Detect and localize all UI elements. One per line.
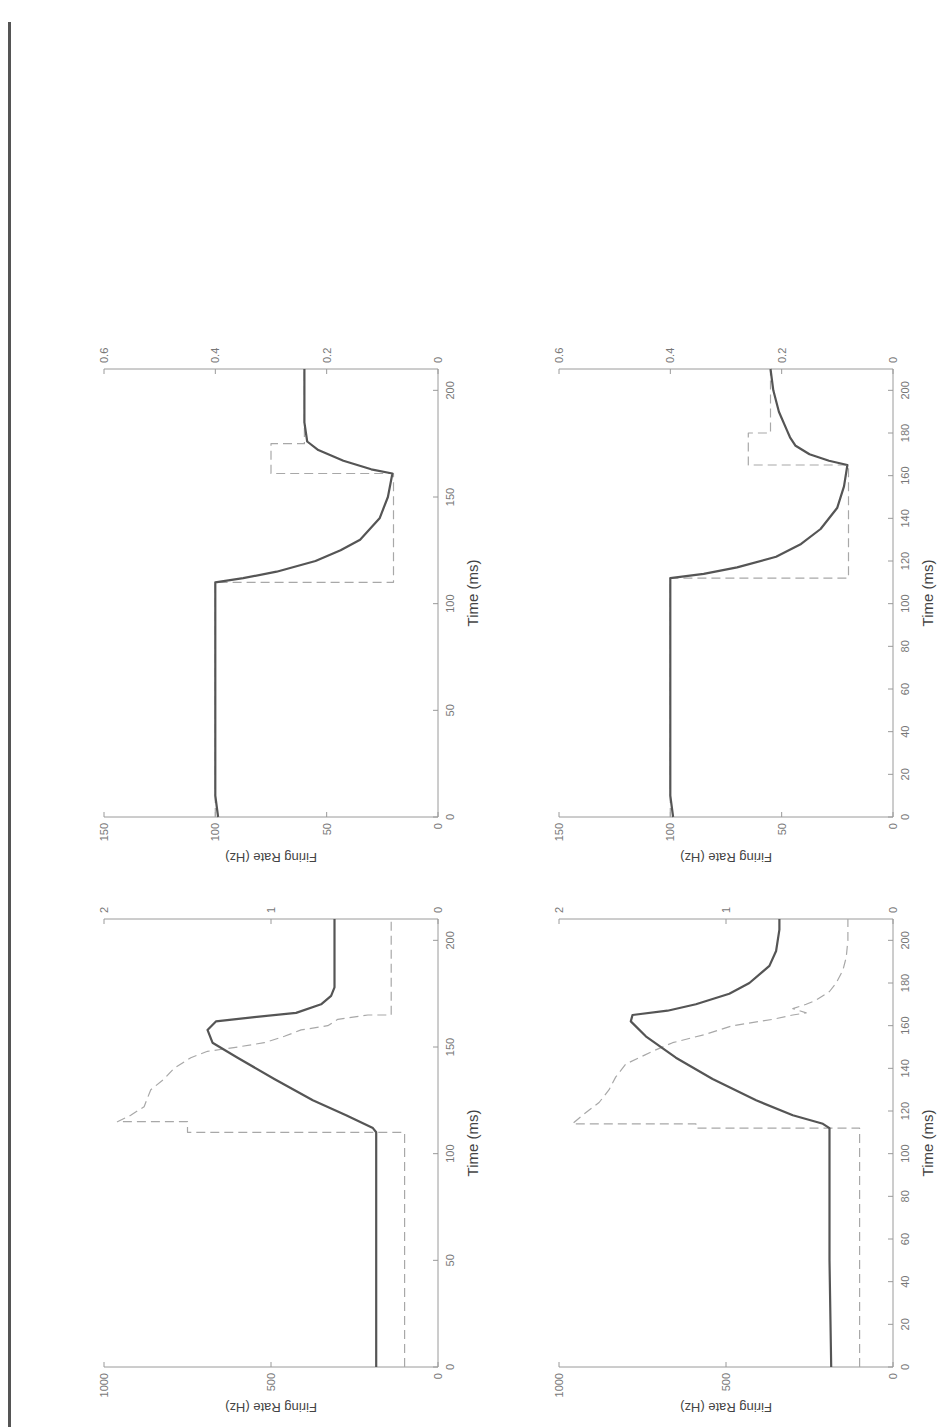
y2-tick-label: 0.6 xyxy=(553,348,565,363)
x-tick-label: 40 xyxy=(899,726,911,738)
x-tick-label: 120 xyxy=(899,1102,911,1120)
margin-rule xyxy=(8,22,11,1427)
y-tick-label: 100 xyxy=(209,823,221,841)
x-tick-label: 60 xyxy=(899,683,911,695)
tension-line xyxy=(670,369,847,817)
x-tick-label: 100 xyxy=(444,594,456,612)
chart-svg: 05010015020005010015000.20.40.6Time (ms)… xyxy=(60,345,500,875)
x-tick-label: 200 xyxy=(899,381,911,399)
y-tick-label: 50 xyxy=(776,823,788,835)
x-tick-label: 20 xyxy=(899,768,911,780)
x-tick-label: 50 xyxy=(444,704,456,716)
x-tick-label: 80 xyxy=(899,640,911,652)
x-axis-title: Time (ms) xyxy=(464,1110,481,1177)
rotated-chart: 05010015020005001000012Time (ms)Firing R… xyxy=(60,895,500,1425)
x-tick-label: 0 xyxy=(899,814,911,820)
x-tick-label: 160 xyxy=(899,466,911,484)
y-tick-label: 0 xyxy=(887,823,899,829)
y-axis-title: Firing Rate (Hz) xyxy=(680,1400,772,1415)
x-tick-label: 50 xyxy=(444,1254,456,1266)
y-tick-label: 1000 xyxy=(553,1373,565,1397)
x-axis-title: Time (ms) xyxy=(919,560,936,627)
y2-tick-label: 0 xyxy=(432,907,444,913)
y-tick-label: 0 xyxy=(432,1373,444,1379)
x-tick-label: 120 xyxy=(899,552,911,570)
chart-panel-d: 02040608010012014016018020005001000012Ti… xyxy=(515,895,943,1425)
x-tick-label: 200 xyxy=(444,931,456,949)
x-tick-label: 180 xyxy=(899,424,911,442)
y2-tick-label: 0 xyxy=(887,357,899,363)
chart-panel-a: 05010015020005010015000.20.40.6Time (ms)… xyxy=(60,345,500,875)
y-tick-label: 0 xyxy=(432,823,444,829)
x-tick-label: 20 xyxy=(899,1318,911,1330)
x-tick-label: 0 xyxy=(444,814,456,820)
x-axis-title: Time (ms) xyxy=(919,1110,936,1177)
x-tick-label: 100 xyxy=(899,594,911,612)
x-tick-label: 60 xyxy=(899,1233,911,1245)
chart-panel-b: 02040608010012014016018020005010015000.2… xyxy=(515,345,943,875)
y-tick-label: 500 xyxy=(265,1373,277,1391)
x-tick-label: 0 xyxy=(899,1364,911,1370)
x-tick-label: 100 xyxy=(899,1144,911,1162)
rotated-chart: 02040608010012014016018020005001000012Ti… xyxy=(515,895,943,1425)
y2-tick-label: 0.2 xyxy=(776,348,788,363)
x-tick-label: 200 xyxy=(899,931,911,949)
x-tick-label: 160 xyxy=(899,1016,911,1034)
y2-tick-label: 2 xyxy=(98,907,110,913)
y2-tick-label: 0.4 xyxy=(664,348,676,363)
chart-svg: 05010015020005001000012Time (ms)Firing R… xyxy=(60,895,500,1425)
y2-tick-label: 0.4 xyxy=(209,348,221,363)
x-tick-label: 140 xyxy=(899,1059,911,1077)
y2-tick-label: 0.6 xyxy=(98,348,110,363)
chart-svg: 02040608010012014016018020005010015000.2… xyxy=(515,345,943,875)
y2-tick-label: 2 xyxy=(553,907,565,913)
chart-svg: 02040608010012014016018020005001000012Ti… xyxy=(515,895,943,1425)
y-tick-label: 0 xyxy=(887,1373,899,1379)
firing-rate-line xyxy=(670,369,848,817)
firing-rate-line xyxy=(215,369,393,817)
x-tick-label: 140 xyxy=(899,509,911,527)
x-tick-label: 150 xyxy=(444,488,456,506)
y-tick-label: 50 xyxy=(321,823,333,835)
x-tick-label: 0 xyxy=(444,1364,456,1370)
tension-line xyxy=(208,919,377,1367)
x-tick-label: 150 xyxy=(444,1038,456,1056)
rotated-chart: 02040608010012014016018020005010015000.2… xyxy=(515,345,943,875)
y-axis-title: Firing Rate (Hz) xyxy=(680,850,772,865)
y-tick-label: 150 xyxy=(98,823,110,841)
firing-rate-line xyxy=(572,919,859,1367)
y2-tick-label: 0.2 xyxy=(321,348,333,363)
y2-tick-label: 1 xyxy=(720,907,732,913)
y-tick-label: 100 xyxy=(664,823,676,841)
y2-tick-label: 1 xyxy=(265,907,277,913)
y-tick-label: 500 xyxy=(720,1373,732,1391)
y-tick-label: 1000 xyxy=(98,1373,110,1397)
y-axis-title: Firing Rate (Hz) xyxy=(225,850,317,865)
y2-tick-label: 0 xyxy=(432,357,444,363)
x-tick-label: 180 xyxy=(899,974,911,992)
x-tick-label: 200 xyxy=(444,381,456,399)
firing-rate-line xyxy=(117,919,404,1367)
x-tick-label: 100 xyxy=(444,1144,456,1162)
x-tick-label: 80 xyxy=(899,1190,911,1202)
chart-panel-c: 05010015020005001000012Time (ms)Firing R… xyxy=(60,895,500,1425)
y2-tick-label: 0 xyxy=(887,907,899,913)
y-axis-title: Firing Rate (Hz) xyxy=(225,1400,317,1415)
tension-line xyxy=(631,919,831,1367)
x-axis-title: Time (ms) xyxy=(464,560,481,627)
rotated-chart: 05010015020005010015000.20.40.6Time (ms)… xyxy=(60,345,500,875)
x-tick-label: 40 xyxy=(899,1276,911,1288)
y-tick-label: 150 xyxy=(553,823,565,841)
